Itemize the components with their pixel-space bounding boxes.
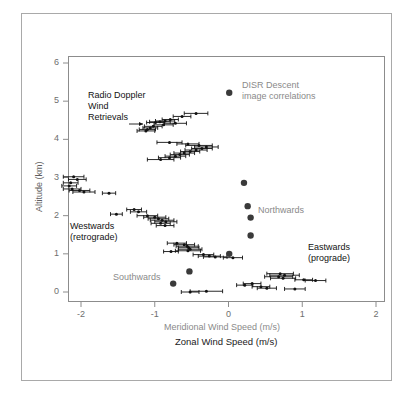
annotation-westwards-line2: (retrograde) [70,232,118,242]
x-tick-label-neg1: -1 [149,309,161,319]
annotation-northwards: Northwards [258,205,304,216]
annotation-radio-doppler-line3: Retrievals [88,112,128,122]
y-tick-label-6: 6 [49,57,59,67]
legend-disr-line1: DISR Descent [242,80,299,90]
annotation-eastwards-line1: Eastwards [308,242,350,252]
annotation-eastwards-line2: (prograde) [308,253,350,263]
x-axis-ticks [81,302,376,307]
disr-series [170,180,254,287]
y-tick-label-4: 4 [49,133,59,143]
y-tick-label-0: 0 [49,286,59,296]
y-tick-label-2: 2 [49,210,59,220]
x-tick-label-1: 1 [296,309,308,319]
annotation-radio-doppler-line2: Wind [88,101,109,111]
annotation-southwards: Southwards [113,272,161,283]
annotation-westwards: Westwards(retrograde) [70,221,118,243]
annotation-eastwards: Eastwards(prograde) [308,242,350,264]
legend-disr: DISR Descentimage correlations [242,80,316,102]
y-tick-label-5: 5 [49,95,59,105]
annotation-radio-doppler: Radio DopplerWindRetrievals [88,90,146,123]
legend-disr-line2: image correlations [242,91,316,101]
x-tick-label-0: 0 [223,309,235,319]
legend-marker-icon [226,90,232,96]
x-axis-title-zonal: Zonal Wind Speed (m/s) [175,336,277,347]
annotation-radio-doppler-line1: Radio Doppler [88,90,146,100]
y-tick-label-3: 3 [49,172,59,182]
figure-root: -2-10120123456 Altitude (km) Meridional … [0,0,412,402]
x-tick-label-neg2: -2 [75,309,87,319]
x-tick-label-2: 2 [370,309,382,319]
radio-doppler-series [62,111,326,294]
y-tick-label-1: 1 [49,248,59,258]
x-axis-title-meridional: Meridional Wind Speed (m/s) [164,322,280,332]
annotation-westwards-line1: Westwards [70,221,114,231]
y-axis-title: Altitude (km) [34,161,44,212]
